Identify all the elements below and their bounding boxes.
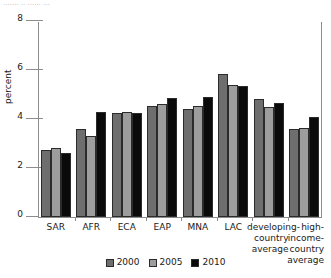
bar <box>193 106 203 217</box>
bar <box>147 106 157 217</box>
x-axis-tick <box>252 217 253 221</box>
bar-group <box>76 22 106 217</box>
bar-group <box>147 22 177 217</box>
bar <box>183 109 193 217</box>
x-axis-tick <box>288 217 289 221</box>
bar-chart: percent 02468 SARAFRECAEAPMNALACdevelopi… <box>0 0 331 278</box>
y-axis-tick: 2 <box>26 167 39 168</box>
x-axis-tick <box>75 217 76 221</box>
bar <box>122 112 132 217</box>
legend-swatch-icon <box>191 259 199 267</box>
y-axis-tick-label: 8 <box>17 14 23 23</box>
bar <box>61 153 71 217</box>
y-axis-tick-inner <box>39 20 43 21</box>
legend-item: 2010 <box>191 258 225 267</box>
bar-group <box>289 22 319 217</box>
bar <box>203 97 213 217</box>
legend: 200020052010 <box>0 258 331 267</box>
legend-label: 2000 <box>117 258 140 267</box>
legend-item: 2005 <box>149 258 183 267</box>
y-axis-tick-label: 2 <box>17 161 23 170</box>
y-axis-tick: 0 <box>26 216 39 217</box>
legend-label: 2005 <box>160 258 183 267</box>
plot-area: 02468 <box>38 22 322 218</box>
y-axis-tick-label: 0 <box>17 210 23 219</box>
y-axis-tick: 6 <box>26 69 39 70</box>
bar-series-container <box>39 22 321 217</box>
bar <box>228 85 238 217</box>
bar <box>157 104 167 217</box>
bar <box>112 113 122 217</box>
bar <box>309 117 319 217</box>
bar <box>254 99 264 217</box>
bar <box>96 112 106 217</box>
x-axis-tick <box>146 217 147 221</box>
bar-group <box>112 22 142 217</box>
y-axis-tick: 4 <box>26 118 39 119</box>
bar-group <box>254 22 284 217</box>
legend-label: 2010 <box>202 258 225 267</box>
bar <box>299 128 309 217</box>
legend-item: 2000 <box>106 258 140 267</box>
x-axis-tick <box>181 217 182 221</box>
y-axis-label: percent <box>4 70 13 104</box>
bar <box>132 113 142 217</box>
bar <box>238 86 248 217</box>
y-axis-tick: 8 <box>26 20 39 21</box>
bar-group <box>218 22 248 217</box>
x-axis-tick <box>217 217 218 221</box>
y-axis-tick-label: 6 <box>17 63 23 72</box>
bar <box>86 136 96 217</box>
y-axis-tick-label: 4 <box>17 112 23 121</box>
bar <box>264 107 274 217</box>
bar <box>167 98 177 217</box>
legend-swatch-icon <box>106 259 114 267</box>
x-axis-tick <box>110 217 111 221</box>
bar <box>51 148 61 217</box>
bar-group <box>41 22 71 217</box>
bar <box>41 150 51 217</box>
bar <box>76 129 86 217</box>
bar-group <box>183 22 213 217</box>
bar <box>289 129 299 217</box>
bar <box>274 103 284 217</box>
legend-swatch-icon <box>149 259 157 267</box>
bar <box>218 74 228 217</box>
